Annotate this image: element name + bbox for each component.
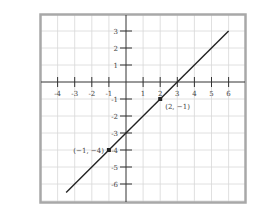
y-tick-label: 3	[114, 28, 118, 36]
y-tick-label: -1	[111, 96, 118, 104]
series	[66, 31, 228, 193]
point-label: (2, −1)	[165, 103, 190, 111]
y-tick-label: -5	[111, 164, 118, 172]
y-tick-label: -4	[111, 147, 118, 155]
x-tick-label: 3	[175, 90, 179, 98]
x-tick-label: -2	[88, 90, 95, 98]
series-line	[66, 31, 228, 193]
chart: -4-3-2-1123456321-1-2-3-4-5-6 (2, −1)(−1…	[0, 0, 266, 219]
point-label: (−1, −4)	[73, 147, 104, 155]
x-tick-label: -3	[71, 90, 78, 98]
x-tick-label: 6	[226, 90, 231, 98]
x-tick-label: 4	[192, 90, 197, 98]
grid	[41, 15, 245, 202]
y-tick-label: -2	[111, 113, 118, 121]
y-tick-label: -6	[111, 181, 118, 189]
y-tick-label: 1	[114, 62, 118, 70]
x-tick-label: -4	[54, 90, 61, 98]
data-point	[107, 148, 111, 152]
x-tick-label: 5	[209, 90, 213, 98]
y-tick-label: -3	[111, 130, 118, 138]
data-point	[158, 97, 162, 101]
y-tick-label: 2	[114, 45, 118, 53]
points: (2, −1)(−1, −4)	[73, 97, 190, 155]
x-tick-label: 1	[141, 90, 145, 98]
